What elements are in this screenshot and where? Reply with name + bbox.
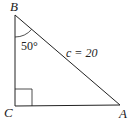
angle-label-b: 50° bbox=[21, 39, 38, 53]
hypotenuse-ab bbox=[15, 15, 120, 105]
vertex-label-b: B bbox=[10, 0, 18, 14]
side-ca bbox=[15, 105, 120, 106]
right-angle-marker bbox=[15, 89, 32, 106]
angle-arc-b bbox=[15, 29, 32, 37]
hypotenuse-label: c = 20 bbox=[66, 46, 97, 60]
triangle-diagram: B C A 50° c = 20 bbox=[0, 0, 129, 122]
vertex-label-c: C bbox=[4, 105, 13, 120]
vertex-label-a: A bbox=[118, 106, 127, 121]
